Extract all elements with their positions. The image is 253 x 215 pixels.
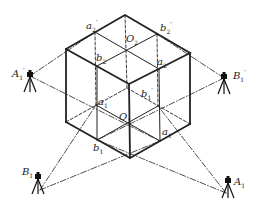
label-A1-prime: A1′: [12, 68, 25, 81]
label-b1: b1: [93, 143, 103, 155]
label-O1: O1: [119, 112, 131, 124]
theodolite-icon-A1: [222, 176, 234, 198]
label-B1-prime: B1′: [233, 70, 246, 83]
label-b2-prime: b2′: [160, 22, 172, 35]
label-a2: a2: [157, 57, 167, 69]
label-b1-prime: b1′: [141, 88, 153, 101]
theodolite-icon-B1: [32, 172, 44, 194]
label-a2-prime: a2′: [86, 20, 97, 33]
label-O2: O2: [126, 34, 138, 46]
label-b2: b2: [96, 53, 106, 65]
label-a1: a1: [162, 127, 172, 139]
label-A1: A1: [234, 177, 245, 189]
label-a1-prime: a1′: [98, 96, 109, 109]
label-B1: B1: [22, 167, 33, 179]
